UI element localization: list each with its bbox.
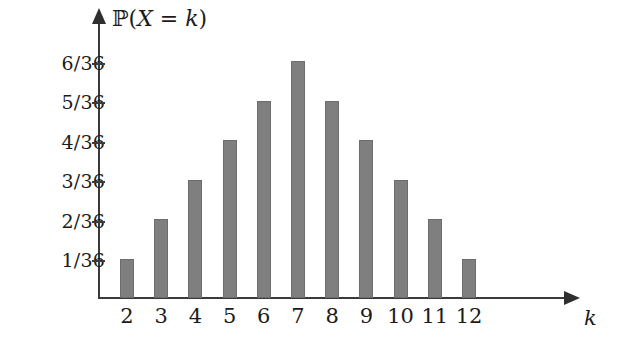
bar (257, 101, 271, 299)
bar (188, 180, 202, 299)
x-tick-label: 8 (326, 306, 339, 327)
y-tick-mark (92, 181, 105, 183)
x-tick-label: 5 (223, 306, 236, 327)
x-tick-label: 6 (257, 306, 270, 327)
x-tick-label: 4 (189, 306, 202, 327)
y-axis-title-k: k (185, 6, 198, 31)
bar (325, 101, 339, 299)
y-axis-title-variable: X (137, 6, 153, 31)
y-tick-mark (92, 260, 105, 262)
x-tick-label: 2 (120, 306, 133, 327)
bar (154, 219, 168, 298)
y-axis-arrow-icon (92, 8, 106, 24)
y-tick-mark (92, 102, 105, 104)
chart-figure: ℙ(X = k) k 1/36 2/36 3/36 4/36 5/36 6/36… (0, 0, 624, 354)
bar (223, 140, 237, 298)
x-tick-label: 11 (421, 306, 448, 327)
x-tick-label: 9 (360, 306, 373, 327)
y-axis-title: ℙ(X = k) (112, 6, 207, 32)
y-tick-mark (92, 221, 105, 223)
bar (120, 259, 134, 299)
bar (359, 140, 373, 298)
y-tick-mark (92, 142, 105, 144)
y-axis-title-paren: ) (199, 6, 208, 31)
x-tick-label: 10 (387, 306, 414, 327)
bar (462, 259, 476, 299)
y-axis-title-equals: = (153, 6, 185, 31)
x-tick-label: 12 (456, 306, 483, 327)
x-axis-arrow-icon (564, 291, 580, 305)
bar (428, 219, 442, 298)
bar (394, 180, 408, 299)
x-tick-label: 7 (291, 306, 304, 327)
y-axis-title-p: ℙ( (112, 6, 137, 31)
x-axis-title: k (584, 308, 597, 329)
x-tick-label: 3 (155, 306, 168, 327)
bar (291, 61, 305, 298)
y-tick-mark (92, 63, 105, 65)
